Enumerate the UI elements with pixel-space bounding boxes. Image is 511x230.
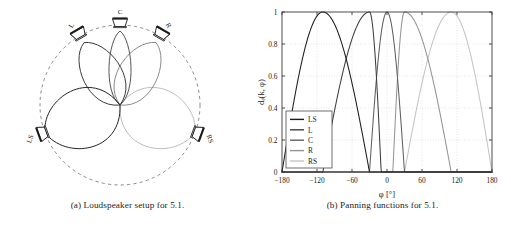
- y-axis-label: dₑ(k, φ): [256, 79, 266, 105]
- chart-legend: LSLCRRS: [286, 111, 332, 168]
- lobe-c: [109, 31, 131, 105]
- subfigure-b-caption: (b) Panning functions for 5.1.: [255, 200, 510, 210]
- xtick-label: 120: [451, 176, 462, 185]
- ytick-label: 0.2: [268, 136, 278, 145]
- legend-label-ls: LS: [308, 115, 317, 124]
- speaker-label-rs: RS: [205, 134, 215, 145]
- loudspeaker-setup-diagram: LCRLSRS: [0, 0, 255, 200]
- panning-functions-chart: −180−120−6006012018000.20.40.60.81φ [°]d…: [255, 0, 511, 200]
- legend-label-c: C: [308, 136, 313, 145]
- subfigure-a-loudspeaker-setup: LCRLSRS (a) Loudspeaker setup for 5.1.: [0, 0, 255, 230]
- speaker-label-ls: LS: [25, 134, 35, 145]
- speaker-baffle-icon: [112, 17, 127, 19]
- x-axis-label: φ [°]: [379, 189, 395, 199]
- subfigure-a-caption: (a) Loudspeaker setup for 5.1.: [0, 200, 255, 210]
- lobe-ls: [45, 87, 120, 148]
- legend-label-rs: RS: [308, 157, 317, 166]
- ytick-label: 0.8: [268, 40, 278, 49]
- ytick-label: 0.4: [268, 104, 278, 113]
- speaker-base-icon: [114, 27, 126, 28]
- ytick-label: 1: [274, 8, 278, 17]
- speaker-label-c: C: [118, 8, 123, 16]
- lobe-r: [114, 42, 161, 105]
- lobe-rs: [120, 87, 195, 148]
- subfigure-b-panning-functions: −180−120−6006012018000.20.40.60.81φ [°]d…: [255, 0, 510, 230]
- speaker-ls: [35, 124, 50, 142]
- speaker-label-r: R: [164, 22, 173, 30]
- speaker-rs: [190, 124, 205, 142]
- figure-container: LCRLSRS (a) Loudspeaker setup for 5.1. −…: [0, 0, 511, 230]
- xtick-label: 0: [385, 176, 389, 185]
- xtick-label: −120: [309, 176, 325, 185]
- speaker-cabinet-icon: [113, 19, 128, 27]
- ytick-label: 0: [274, 168, 278, 177]
- legend-label-r: R: [308, 146, 313, 155]
- lobe-group: [45, 31, 196, 149]
- xtick-label: −180: [274, 176, 290, 185]
- legend-label-l: L: [308, 126, 313, 135]
- xtick-label: 180: [486, 176, 497, 185]
- speaker-c: [112, 17, 127, 27]
- lobe-l: [79, 42, 126, 105]
- xtick-label: 60: [418, 176, 426, 185]
- ytick-label: 0.6: [268, 72, 278, 81]
- xtick-label: −60: [346, 176, 358, 185]
- speaker-label-l: L: [67, 22, 76, 30]
